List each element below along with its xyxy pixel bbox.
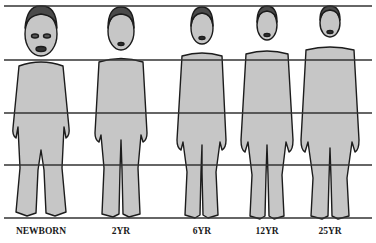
figures-canvas xyxy=(0,0,376,243)
label-6yr: 6YR xyxy=(193,226,211,236)
figure-2yr xyxy=(95,7,147,217)
label-12yr: 12YR xyxy=(255,226,278,236)
label-25yr: 25YR xyxy=(318,226,341,236)
label-2yr: 2YR xyxy=(112,226,130,236)
body-proportion-diagram: NEWBORN 2YR 6YR 12YR 25YR xyxy=(0,0,376,243)
figure-newborn xyxy=(13,6,69,216)
label-newborn: NEWBORN xyxy=(16,226,66,236)
